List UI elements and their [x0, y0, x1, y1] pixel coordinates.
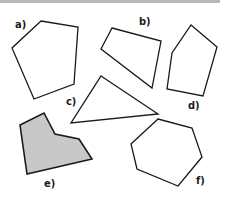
label-f: f)	[196, 174, 205, 187]
shape-a: a)	[12, 18, 78, 99]
polygons-figure: a) b) c) d) e) f)	[0, 0, 225, 202]
label-d: d)	[188, 99, 200, 112]
polygon-b	[101, 28, 161, 88]
shape-c: c)	[66, 76, 158, 123]
label-b: b)	[139, 15, 151, 28]
polygon-a	[12, 21, 78, 99]
polygon-f	[131, 119, 202, 186]
shape-d: d)	[167, 25, 217, 112]
label-e: e)	[44, 177, 55, 190]
shape-f: f)	[131, 119, 205, 187]
shape-b: b)	[101, 15, 161, 88]
label-a: a)	[15, 18, 26, 31]
shape-e: e)	[20, 113, 92, 190]
label-c: c)	[66, 95, 76, 108]
polygon-d	[167, 25, 217, 96]
